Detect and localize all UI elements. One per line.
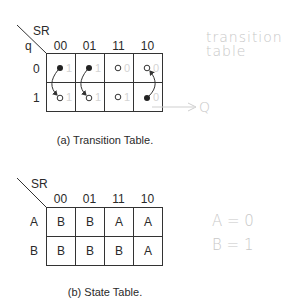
cell: B [47,237,76,266]
cell: B [105,237,134,266]
column-header: 10 [133,193,162,205]
cell: A [134,208,163,237]
column-header: 11 [104,193,133,205]
row-header: A [30,216,38,228]
corner-label-sr: SR [31,178,48,190]
column-header: 00 [46,193,75,205]
handwritten-note-b-equals-1: B = 1 [212,236,253,254]
row-header: B [30,245,38,257]
cell: A [134,237,163,266]
handwritten-note-a-equals-0: A = 0 [212,212,254,230]
column-header: 01 [75,193,104,205]
cell: B [47,208,76,237]
cell: A [105,208,134,237]
caption-b: (b) State Table. [40,286,170,298]
state-grid: B B A A B B B A [46,207,163,266]
cell: B [76,208,105,237]
cell: B [76,237,105,266]
